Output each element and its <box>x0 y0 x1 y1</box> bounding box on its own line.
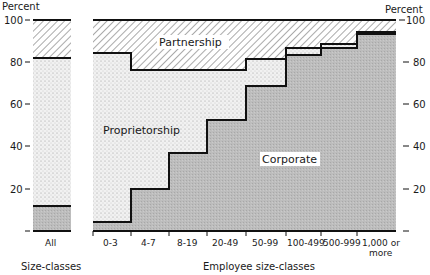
right-tick-60: 60 <box>413 99 426 110</box>
x-label-more: more <box>369 248 393 258</box>
proprietorship-label: Proprietorship <box>103 124 180 137</box>
left-axis-title: Percent <box>2 1 40 12</box>
all-proprietorship-area <box>33 58 71 206</box>
right-tick-20: 20 <box>413 184 426 195</box>
x-label-50-99: 50-99 <box>252 238 278 248</box>
partnership-label: Partnership <box>159 36 222 49</box>
x-label-1000-or: 1,000 or <box>362 238 400 248</box>
all-bar <box>33 20 71 231</box>
x-label-8-19: 8-19 <box>177 238 198 248</box>
corporate-label: Corporate <box>262 153 317 166</box>
x-label-4-7: 4-7 <box>141 238 156 248</box>
all-corporate-area <box>33 206 71 231</box>
right-axis-title: Percent <box>385 4 423 15</box>
chart-canvas: Percent 100 80 60 40 20 All Size-classes… <box>0 0 430 275</box>
left-tick-100: 100 <box>4 15 23 26</box>
right-x-axis-title: Employee size-classes <box>203 261 315 272</box>
right-tick-100: 100 <box>406 15 425 26</box>
x-axis-labels: 0-3 4-7 8-19 20-49 50-99 100-499 500-999… <box>103 238 400 258</box>
all-category-label: All <box>45 238 56 248</box>
x-label-0-3: 0-3 <box>103 238 118 248</box>
left-tick-60: 60 <box>10 99 23 110</box>
left-x-axis-title: Size-classes <box>21 261 81 272</box>
x-label-500-999: 500-999 <box>323 238 361 248</box>
left-tick-20: 20 <box>10 184 23 195</box>
x-label-20-49: 20-49 <box>212 238 238 248</box>
right-tick-40: 40 <box>413 141 426 152</box>
right-tick-80: 80 <box>413 57 426 68</box>
x-label-100-499: 100-499 <box>287 238 325 248</box>
left-tick-40: 40 <box>10 141 23 152</box>
all-partnership-area <box>33 20 71 58</box>
left-tick-80: 80 <box>10 57 23 68</box>
